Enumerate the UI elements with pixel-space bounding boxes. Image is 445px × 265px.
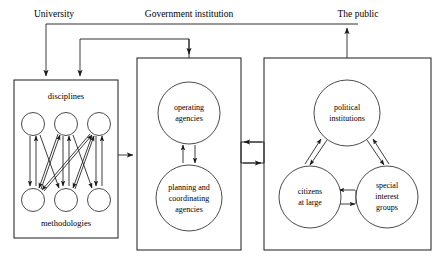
node-discipline-2[interactable] bbox=[55, 113, 78, 136]
node-political-line1: political bbox=[334, 103, 361, 112]
node-citizens-line2: at large bbox=[298, 198, 322, 207]
node-planning-line2: coordinating bbox=[169, 194, 209, 203]
node-operating-agencies-line2: agencies bbox=[175, 114, 203, 123]
government-public-top-bus bbox=[189, 39, 264, 58]
node-special-interest-line2: interest bbox=[375, 192, 399, 201]
connector-government-to-public bbox=[241, 142, 264, 163]
label-the-public: The public bbox=[338, 9, 379, 19]
node-methodology-3[interactable] bbox=[88, 189, 111, 212]
institutional-relations-diagram: University Government institution The pu… bbox=[0, 0, 445, 265]
diagram-canvas: University Government institution The pu… bbox=[0, 0, 445, 265]
node-special-interest-line1: special bbox=[376, 181, 399, 190]
label-methodologies: methodologies bbox=[41, 218, 91, 228]
node-citizens-line1: citizens bbox=[298, 187, 322, 196]
node-special-interest-line3: groups bbox=[376, 203, 398, 212]
node-discipline-1[interactable] bbox=[22, 113, 45, 136]
node-planning-line1: planning and bbox=[168, 183, 210, 192]
label-government-institution: Government institution bbox=[145, 9, 234, 19]
label-university: University bbox=[34, 9, 74, 19]
label-disciplines: disciplines bbox=[48, 91, 84, 101]
node-planning-line3: agencies bbox=[175, 205, 203, 214]
node-methodology-1[interactable] bbox=[22, 189, 45, 212]
node-discipline-3[interactable] bbox=[88, 113, 111, 136]
node-operating-agencies-line1: operating bbox=[174, 103, 204, 112]
node-political-line2: institutions bbox=[329, 114, 365, 123]
node-methodology-2[interactable] bbox=[55, 189, 78, 212]
